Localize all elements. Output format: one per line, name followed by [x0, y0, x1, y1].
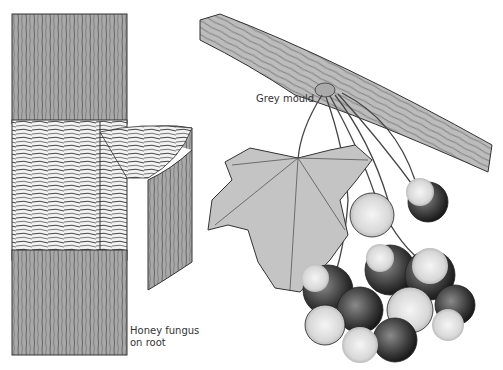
- grey-mould-label: Grey mould: [256, 93, 314, 105]
- honey-fungus-label-line2: on root: [130, 337, 199, 349]
- illustration-canvas: Grey mould Honey fungus on root: [0, 0, 503, 370]
- honey-fungus-label: Honey fungus on root: [130, 325, 199, 349]
- honey-fungus-root-drawing: [12, 14, 192, 355]
- leaf-drawing: [208, 145, 372, 292]
- illustration-svg: [0, 0, 503, 370]
- honey-fungus-label-line1: Honey fungus: [130, 325, 199, 337]
